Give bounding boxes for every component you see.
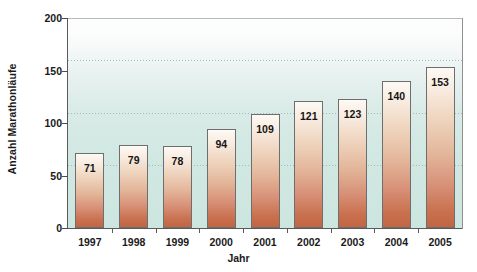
bar-value-label: 140 <box>382 90 411 102</box>
bar-value-label: 78 <box>163 155 192 167</box>
y-axis-tick-mark <box>62 71 68 72</box>
x-axis-tick-mark <box>331 228 332 233</box>
bar-value-label: 79 <box>119 154 148 166</box>
y-axis-tick-mark <box>62 123 68 124</box>
bar-value-label: 109 <box>251 123 280 135</box>
y-axis-tick-mark <box>62 228 68 229</box>
bar-value-label: 71 <box>75 162 104 174</box>
y-axis-tick-label: 150 <box>28 65 62 77</box>
bar <box>382 81 411 228</box>
x-axis-tick-mark <box>112 228 113 233</box>
y-axis-tick-label: 50 <box>28 170 62 182</box>
y-axis-tick-label: 200 <box>28 12 62 24</box>
plot-area: 71797894109121123140153 <box>68 18 462 228</box>
y-axis-tick-label: 100 <box>28 117 62 129</box>
x-axis-line <box>67 228 463 229</box>
x-axis-tick-mark <box>156 228 157 233</box>
x-axis-tick-mark <box>374 228 375 233</box>
plot-frame-right <box>462 18 463 229</box>
bar-value-label: 123 <box>338 108 367 120</box>
y-axis-tick-mark <box>62 18 68 19</box>
bar-value-label: 94 <box>207 138 236 150</box>
x-axis-tick-mark <box>287 228 288 233</box>
y-axis-tick-label: 0 <box>28 222 62 234</box>
x-axis-tick-mark <box>199 228 200 233</box>
y-axis-title: Anzahl Marathonläufe <box>6 14 18 224</box>
x-axis-title: Jahr <box>0 252 477 264</box>
x-axis-tick-mark <box>243 228 244 233</box>
x-axis-tick-label: 2005 <box>410 236 470 248</box>
bar <box>426 67 455 228</box>
y-axis-tick-mark <box>62 176 68 177</box>
bar-chart-figure: Anzahl Marathonläufe 050100150200 717978… <box>0 0 477 272</box>
bar-value-label: 153 <box>426 76 455 88</box>
y-axis-tick-labels: 050100150200 <box>22 0 62 272</box>
plot-frame-top <box>68 18 462 19</box>
bars-series: 71797894109121123140153 <box>68 18 462 228</box>
x-axis-tick-mark <box>418 228 419 233</box>
bar-value-label: 121 <box>294 110 323 122</box>
